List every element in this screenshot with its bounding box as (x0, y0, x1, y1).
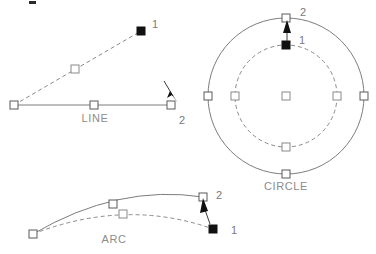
grip-cold[interactable] (282, 143, 290, 151)
diagram-canvas: LINE 1 2 CIRCLE (0, 0, 376, 254)
grip-cold[interactable] (10, 101, 18, 109)
grip-cold[interactable] (71, 65, 79, 73)
grip-set-arc[interactable] (29, 193, 217, 238)
grip-cold[interactable] (29, 230, 37, 238)
point-label-line-2: 2 (179, 114, 185, 126)
grip-cold[interactable] (360, 92, 368, 100)
grip-cold[interactable] (333, 92, 341, 100)
grip-cold[interactable] (167, 101, 175, 109)
grip-cold[interactable] (282, 92, 290, 100)
drag-arrow-line (164, 81, 178, 103)
object-circle[interactable]: CIRCLE 1 2 (204, 6, 368, 192)
grip-cold[interactable] (282, 170, 290, 178)
label-circle: CIRCLE (264, 180, 308, 192)
point-label-circle-2: 2 (300, 6, 306, 18)
grip-cold[interactable] (231, 92, 239, 100)
grip-cold[interactable] (90, 101, 98, 109)
grip-cold[interactable] (204, 92, 212, 100)
grip-cold[interactable] (119, 210, 127, 218)
grip-set-circle[interactable] (204, 14, 368, 178)
grip-hot[interactable] (282, 41, 290, 49)
grip-hot[interactable] (137, 27, 145, 35)
grip-hot[interactable] (209, 225, 217, 233)
label-line: LINE (82, 112, 109, 124)
point-label-arc-2: 2 (216, 189, 222, 201)
point-label-arc-1: 1 (231, 224, 237, 236)
point-label-line-1: 1 (152, 18, 158, 30)
grip-set-line[interactable] (10, 27, 175, 109)
object-line[interactable]: LINE 1 2 (10, 18, 185, 126)
label-arc: ARC (101, 233, 126, 245)
grip-cold[interactable] (282, 14, 290, 22)
point-label-circle-1: 1 (299, 34, 305, 46)
arc-solid-geometry[interactable] (33, 194, 203, 234)
object-arc[interactable]: ARC 1 2 (29, 189, 237, 245)
stray-mark (29, 1, 36, 4)
drag-arrow-arc (200, 198, 210, 224)
drag-arrow-circle (283, 20, 291, 41)
cad-grip-diagram: LINE 1 2 CIRCLE (0, 0, 376, 254)
grip-cold[interactable] (109, 200, 117, 208)
